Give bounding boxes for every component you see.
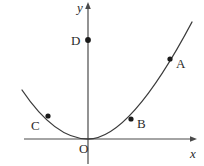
origin-label: O bbox=[79, 141, 88, 156]
x-axis-label: x bbox=[189, 146, 196, 161]
x-axis bbox=[24, 136, 197, 142]
point-b-dot bbox=[128, 116, 133, 121]
point-c-label: C bbox=[31, 118, 40, 133]
x-axis-arrowhead bbox=[190, 136, 197, 142]
parabola-figure: A B C D y x O bbox=[0, 0, 204, 166]
marked-points bbox=[45, 37, 172, 122]
point-a-label: A bbox=[176, 56, 186, 71]
figure-canvas: A B C D y x O bbox=[0, 0, 204, 166]
point-a-dot bbox=[167, 56, 172, 61]
point-d-label: D bbox=[71, 33, 80, 48]
point-d-dot bbox=[85, 37, 91, 43]
point-b-label: B bbox=[137, 116, 146, 131]
y-axis bbox=[85, 2, 91, 164]
point-c-dot bbox=[45, 113, 50, 118]
y-axis-label: y bbox=[75, 0, 83, 15]
y-axis-arrowhead bbox=[85, 2, 91, 9]
parabola-curve bbox=[22, 22, 192, 139]
